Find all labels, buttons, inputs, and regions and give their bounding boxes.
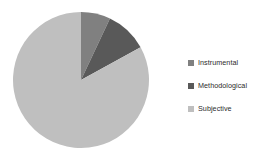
square-marker-icon [188, 60, 194, 66]
pie-slice-group [13, 12, 149, 148]
legend-item-label: Instrumental [198, 58, 238, 67]
legend-item-label: Subjective [198, 104, 232, 113]
pie-chart-svg [0, 0, 180, 163]
square-marker-icon [188, 83, 194, 89]
legend-item-subjective[interactable]: Subjective [188, 101, 268, 116]
legend-item-instrumental[interactable]: Instrumental [188, 55, 268, 70]
legend-item-label: Methodological [198, 81, 247, 90]
square-marker-icon [188, 106, 194, 112]
chart-legend: Instrumental Methodological Subjective [188, 55, 268, 124]
pie-chart-figure: Instrumental Methodological Subjective [0, 0, 270, 163]
chart-plot-area [0, 0, 180, 163]
legend-item-methodological[interactable]: Methodological [188, 78, 268, 93]
